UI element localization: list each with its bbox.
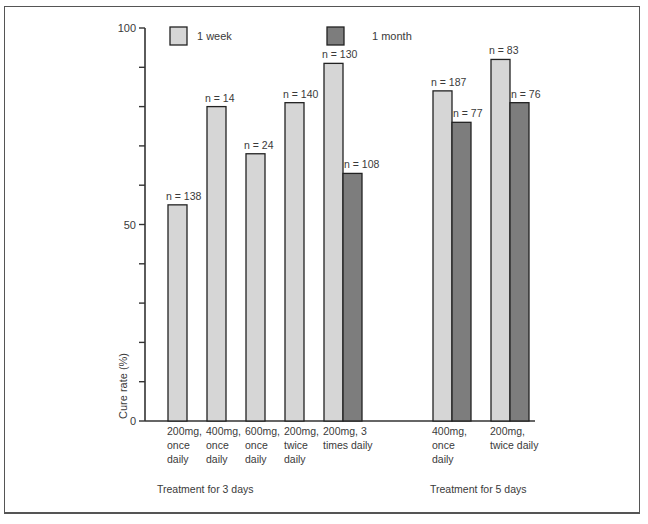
category-label: times daily <box>323 439 373 451</box>
category-label: once <box>432 439 455 451</box>
bar-n-label: n = 76 <box>511 88 541 100</box>
category-label: once <box>245 439 268 451</box>
y-axis-label: Cure rate (%) <box>117 353 129 419</box>
category-label: daily <box>167 453 189 465</box>
bar-1-week <box>285 103 304 421</box>
category-label: once <box>206 439 229 451</box>
category-label: 200mg, <box>167 425 202 437</box>
category-label: 400mg, <box>206 425 241 437</box>
category-label: 200mg, <box>490 425 525 437</box>
group-label: Treatment for 5 days <box>430 483 526 495</box>
y-tick-label: 50 <box>124 219 136 231</box>
legend-label: 1 month <box>372 30 412 42</box>
bar-n-label: n = 187 <box>431 76 466 88</box>
bar-1-week <box>324 63 343 421</box>
bar-n-label: n = 77 <box>453 107 483 119</box>
category-label: daily <box>284 453 306 465</box>
bar-n-label: n = 83 <box>489 44 519 56</box>
bar-1-month <box>452 122 471 421</box>
category-label: 200mg, 3 <box>323 425 367 437</box>
category-label: twice <box>284 439 308 451</box>
category-label: 600mg, <box>245 425 280 437</box>
category-label: daily <box>432 453 454 465</box>
bar-n-label: n = 130 <box>322 48 357 60</box>
bar-n-label: n = 138 <box>166 190 201 202</box>
category-label: once <box>167 439 190 451</box>
category-label: daily <box>245 453 267 465</box>
bar-1-week <box>207 107 226 421</box>
category-label: 200mg, <box>284 425 319 437</box>
group-label: Treatment for 3 days <box>157 483 253 495</box>
category-label: 400mg, <box>432 425 467 437</box>
bar-1-week <box>168 205 187 421</box>
category-label: twice daily <box>490 439 539 451</box>
bar-n-label: n = 24 <box>244 139 274 151</box>
bar-n-label: n = 140 <box>283 88 318 100</box>
category-label: daily <box>206 453 228 465</box>
bar-1-week <box>491 59 510 421</box>
bar-1-week <box>433 91 452 421</box>
bar-n-label: n = 108 <box>344 158 379 170</box>
legend-label: 1 week <box>197 30 232 42</box>
y-tick-label: 100 <box>118 22 136 34</box>
y-tick-label: 0 <box>130 415 136 427</box>
bar-1-month <box>510 103 529 421</box>
legend-swatch-1-week <box>170 27 187 45</box>
bar-1-month <box>343 173 362 421</box>
bar-n-label: n = 14 <box>205 92 235 104</box>
bar-1-week <box>246 154 265 421</box>
legend-swatch-1-month <box>327 27 344 45</box>
bar-chart: 050100Cure rate (%)1 week1 monthn = 1382… <box>0 0 648 524</box>
